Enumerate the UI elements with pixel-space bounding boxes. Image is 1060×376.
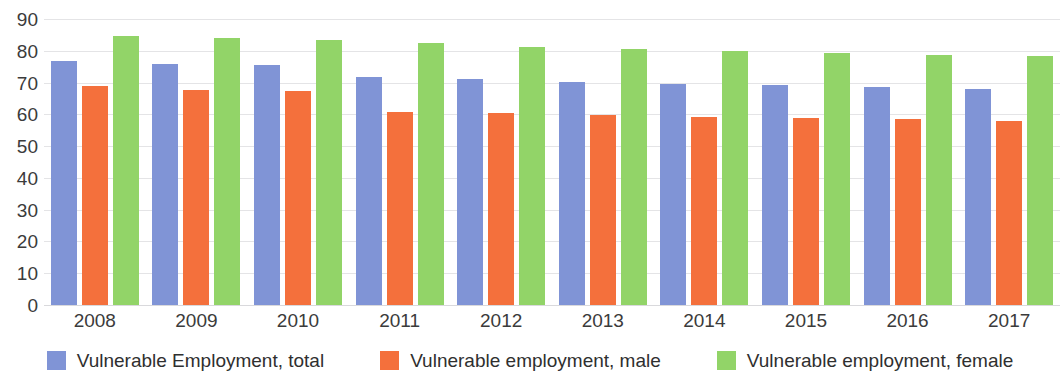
y-axis-tick-label: 30 [17, 200, 38, 219]
bar [864, 87, 890, 305]
bar [965, 89, 991, 305]
bar [824, 53, 850, 305]
x-axis-tick-label: 2008 [44, 305, 146, 337]
bar-group [654, 19, 756, 305]
legend-item[interactable]: Vulnerable employment, female [717, 351, 1014, 370]
bar-group [349, 19, 451, 305]
y-axis: 9080706050403020100 [0, 19, 38, 305]
bar-group [247, 19, 349, 305]
x-axis-tick-label: 2010 [247, 305, 349, 337]
bar [418, 43, 444, 305]
y-axis-tick-label: 50 [17, 137, 38, 156]
bar [590, 115, 616, 305]
legend-label: Vulnerable employment, male [410, 351, 661, 370]
bar [793, 118, 819, 305]
x-axis-tick-label: 2016 [857, 305, 959, 337]
bar-group [44, 19, 146, 305]
bar-group [450, 19, 552, 305]
bar [488, 113, 514, 305]
legend-swatch-icon [380, 351, 399, 370]
bar-group [146, 19, 248, 305]
bar [356, 77, 382, 305]
bar [51, 61, 77, 305]
plot-area [44, 19, 1060, 305]
y-axis-tick-label: 70 [17, 73, 38, 92]
bar-group [857, 19, 959, 305]
x-axis-tick-label: 2011 [349, 305, 451, 337]
bar [457, 79, 483, 305]
y-axis-tick-label: 80 [17, 41, 38, 60]
x-axis-tick-label: 2009 [146, 305, 248, 337]
x-axis: 2008200920102011201220132014201520162017 [44, 305, 1060, 337]
bar [621, 49, 647, 305]
y-axis-tick-label: 90 [17, 10, 38, 29]
bar [996, 121, 1022, 305]
x-axis-tick-label: 2015 [755, 305, 857, 337]
bar [895, 119, 921, 305]
bar-group [958, 19, 1060, 305]
bar [214, 38, 240, 305]
x-axis-tick-label: 2017 [958, 305, 1060, 337]
bar [82, 86, 108, 305]
x-axis-tick-label: 2012 [450, 305, 552, 337]
bar [722, 51, 748, 305]
bar-group [755, 19, 857, 305]
chart-legend: Vulnerable Employment, totalVulnerable e… [0, 344, 1060, 376]
bar [926, 55, 952, 305]
x-axis-tick-label: 2013 [552, 305, 654, 337]
bar [519, 47, 545, 305]
bar [285, 91, 311, 306]
bar [762, 85, 788, 305]
bar [387, 112, 413, 305]
bar [254, 65, 280, 305]
legend-swatch-icon [47, 351, 66, 370]
y-axis-tick-label: 40 [17, 168, 38, 187]
legend-item[interactable]: Vulnerable Employment, total [47, 351, 324, 370]
bar [691, 117, 717, 305]
bar [559, 82, 585, 305]
bar-chart: 9080706050403020100 20082009201020112012… [0, 0, 1060, 376]
legend-swatch-icon [717, 351, 736, 370]
legend-label: Vulnerable Employment, total [77, 351, 324, 370]
y-axis-tick-label: 20 [17, 232, 38, 251]
y-axis-tick-label: 0 [27, 296, 38, 315]
bar [1027, 56, 1053, 305]
bar [113, 36, 139, 305]
legend-label: Vulnerable employment, female [747, 351, 1014, 370]
bar [660, 84, 686, 305]
bar [183, 90, 209, 305]
bar [316, 40, 342, 305]
legend-item[interactable]: Vulnerable employment, male [380, 351, 661, 370]
x-axis-tick-label: 2014 [654, 305, 756, 337]
bar [152, 64, 178, 305]
y-axis-tick-label: 60 [17, 105, 38, 124]
y-axis-tick-label: 10 [17, 264, 38, 283]
bar-group [552, 19, 654, 305]
bar-groups [44, 19, 1060, 305]
